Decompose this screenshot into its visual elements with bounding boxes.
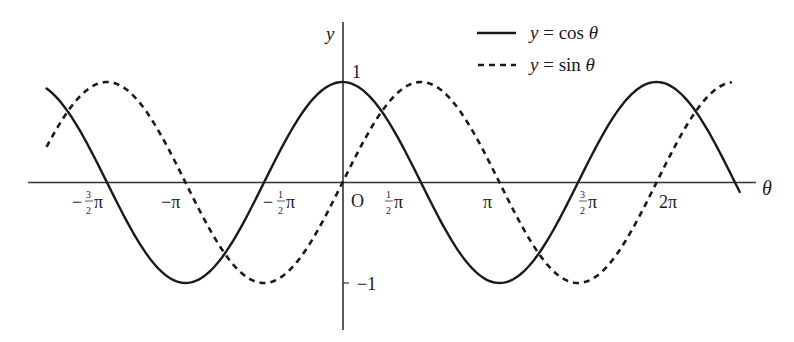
y-axis-label: y xyxy=(324,23,335,44)
tick-neg-half-pi: − 1 2 π xyxy=(263,189,295,216)
y-tick-label-minus-one: −1 xyxy=(357,274,376,294)
tick-pi: π xyxy=(286,192,295,212)
tick-neg-pi: −π xyxy=(161,192,180,212)
legend-item-sin: y = sin θ xyxy=(478,54,595,75)
tick-den: 2 xyxy=(580,205,585,216)
legend-item-cos: y = cos θ xyxy=(477,22,598,43)
trig-chart: y θ O 1 −1 − 3 2 π −π − 1 2 π 1 2 π π 3 … xyxy=(0,0,794,342)
tick-sign: − xyxy=(72,192,82,212)
y-tick-label-one: 1 xyxy=(352,62,361,82)
tick-sign: − xyxy=(263,192,273,212)
tick-den: 2 xyxy=(386,205,391,216)
tick-two-pi: 2π xyxy=(659,192,677,212)
origin-label: O xyxy=(351,191,364,211)
legend-label-cos: y = cos θ xyxy=(528,22,598,43)
tick-den: 2 xyxy=(278,205,283,216)
tick-num: 1 xyxy=(386,189,391,200)
tick-den: 2 xyxy=(86,205,91,216)
legend: y = cos θ y = sin θ xyxy=(477,22,598,75)
tick-pi: π xyxy=(94,192,103,212)
tick-neg-three-half-pi: − 3 2 π xyxy=(72,189,103,216)
tick-pi: π xyxy=(394,192,403,212)
tick-pi: π xyxy=(588,192,597,212)
tick-num: 1 xyxy=(278,189,283,200)
tick-three-half-pi: 3 2 π xyxy=(579,189,597,216)
tick-pi: π xyxy=(483,192,492,212)
x-axis-label: θ xyxy=(762,177,772,199)
tick-num: 3 xyxy=(86,189,91,200)
legend-label-sin: y = sin θ xyxy=(528,54,595,75)
tick-num: 3 xyxy=(580,189,585,200)
tick-half-pi: 1 2 π xyxy=(385,189,403,216)
